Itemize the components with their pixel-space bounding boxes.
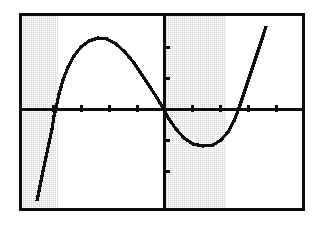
function-curve [37,26,266,201]
screenshot-root [0,0,318,232]
plot-area [22,16,302,208]
calculator-screen-frame [19,13,305,211]
curve-layer [22,16,302,208]
